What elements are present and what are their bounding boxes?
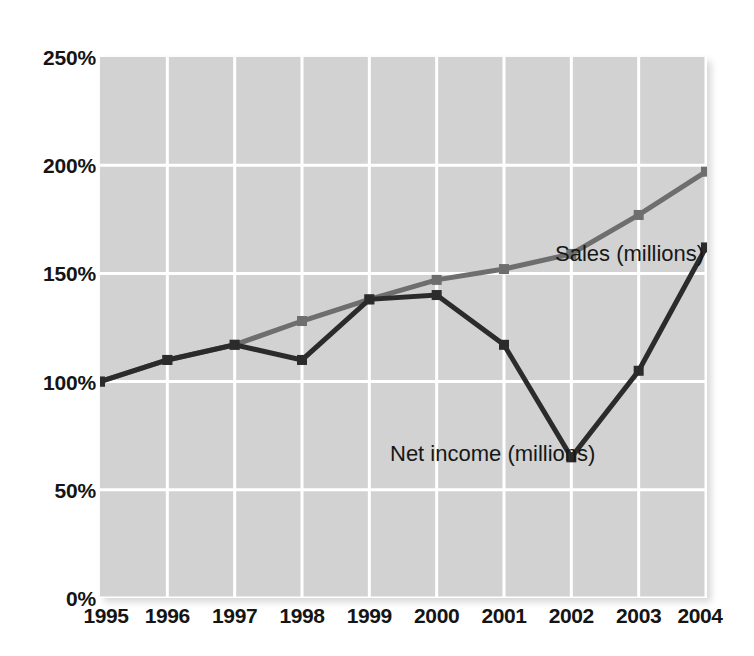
data-point-marker — [230, 340, 240, 350]
x-axis-tick-label: 1995 — [83, 604, 128, 628]
gridlines — [100, 57, 707, 598]
y-axis-tick-label: 0% — [4, 588, 96, 609]
data-point-marker — [499, 264, 509, 274]
data-point-marker — [634, 210, 644, 220]
y-axis-tick-label: 50% — [4, 479, 96, 500]
net-income-series-label: Net income (millions) — [390, 443, 595, 465]
data-point-marker — [499, 340, 509, 350]
x-axis-tick-label: 2004 — [677, 604, 722, 628]
series-net-income — [100, 242, 707, 462]
data-point-marker — [432, 290, 442, 300]
y-axis-tick-label: 200% — [4, 155, 96, 176]
data-point-marker — [701, 167, 707, 177]
x-axis-tick-label: 2002 — [549, 604, 594, 628]
x-axis-tick-label: 2000 — [414, 604, 459, 628]
data-point-marker — [100, 377, 105, 387]
data-point-marker — [297, 316, 307, 326]
chart-figure: 250%200%150%100%50%0% Sales (millions) N… — [0, 0, 754, 656]
y-axis-tick-label: 100% — [4, 371, 96, 392]
y-axis-tick-label: 250% — [4, 47, 96, 68]
data-point-marker — [364, 294, 374, 304]
x-axis-tick-label: 1997 — [212, 604, 257, 628]
x-axis-tick-label: 2001 — [481, 604, 526, 628]
data-point-marker — [432, 275, 442, 285]
data-point-marker — [162, 355, 172, 365]
plot-area: Sales (millions) Net income (millions) — [100, 57, 707, 598]
data-point-marker — [297, 355, 307, 365]
x-axis-tick-label: 2003 — [616, 604, 661, 628]
x-axis-labels: 1995199619971998199920002001200220032004 — [100, 604, 707, 644]
sales-series-label: Sales (millions) — [555, 243, 704, 265]
x-axis-tick-label: 1998 — [279, 604, 324, 628]
x-axis-tick-label: 1999 — [347, 604, 392, 628]
series-line — [100, 247, 706, 457]
y-axis-tick-label: 150% — [4, 263, 96, 284]
x-axis-tick-label: 1996 — [145, 604, 190, 628]
data-point-marker — [634, 366, 644, 376]
series-line — [100, 172, 706, 382]
plot-svg — [100, 57, 707, 598]
y-axis-labels: 250%200%150%100%50%0% — [0, 0, 96, 656]
